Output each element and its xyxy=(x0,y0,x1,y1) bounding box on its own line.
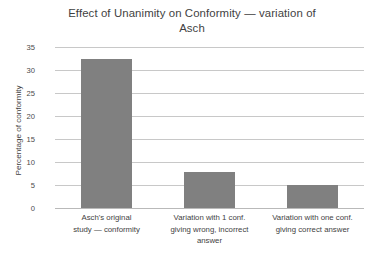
bar-chart: Effect of Unanimity on Conformity — vari… xyxy=(0,0,379,269)
y-tick-label-5: 5 xyxy=(0,181,35,190)
y-tick-label-25: 25 xyxy=(0,89,35,98)
x-category-label-2-line-2: giving wrong, incorrect xyxy=(170,225,248,234)
x-category-label-3-line-2: giving correct answer xyxy=(276,225,350,234)
bar-3[interactable] xyxy=(287,185,338,208)
gridline-0 xyxy=(55,208,364,209)
x-category-label-2-line-1: Variation with 1 conf. xyxy=(174,213,246,222)
chart-title-line-1: Effect of Unanimity on Conformity — vari… xyxy=(68,7,316,19)
y-tick-label-0: 0 xyxy=(0,204,35,213)
x-category-label-3: Variation with one conf.giving correct a… xyxy=(261,212,364,235)
chart-title: Effect of Unanimity on Conformity — vari… xyxy=(42,6,342,36)
x-category-label-1: Asch's originalstudy — conformity xyxy=(55,212,158,235)
y-tick-label-15: 15 xyxy=(0,135,35,144)
y-tick-label-10: 10 xyxy=(0,158,35,167)
y-tick-label-30: 30 xyxy=(0,66,35,75)
bar-2[interactable] xyxy=(184,172,235,208)
x-category-label-1-line-2: study — conformity xyxy=(73,225,140,234)
y-tick-label-35: 35 xyxy=(0,43,35,52)
chart-title-line-2: Asch xyxy=(179,22,205,34)
y-tick-label-20: 20 xyxy=(0,112,35,121)
plot-area: 35302520151050 xyxy=(55,47,364,208)
x-category-label-2: Variation with 1 conf.giving wrong, inco… xyxy=(158,212,261,247)
x-category-label-1-line-1: Asch's original xyxy=(81,213,131,222)
x-category-label-2-line-3: answer xyxy=(197,236,222,245)
x-axis-category-labels: Asch's originalstudy — conformityVariati… xyxy=(55,212,364,268)
gridline-35 xyxy=(55,47,364,48)
bar-1[interactable] xyxy=(81,59,132,209)
x-category-label-3-line-1: Variation with one conf. xyxy=(272,213,352,222)
